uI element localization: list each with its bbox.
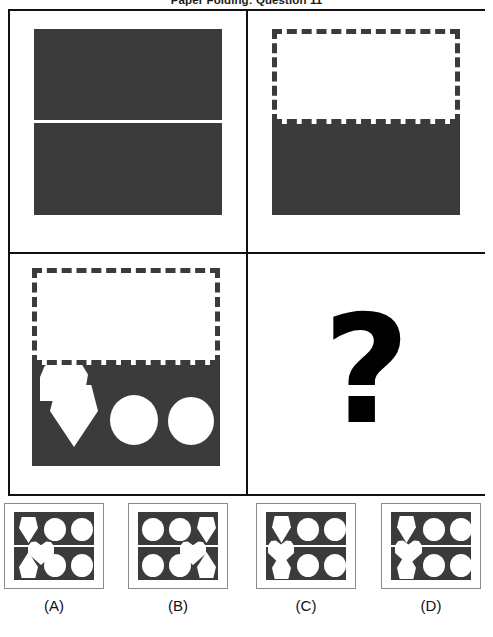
- hole-circle-bottom-left: [142, 554, 164, 577]
- hole-circle-bottom-right: [324, 554, 346, 577]
- hole-circle-middle: [110, 395, 158, 445]
- panel-unfolded-sheet: [10, 11, 248, 254]
- page-title: Paper Folding: Question 11: [0, 0, 493, 6]
- hole-circle-right: [168, 397, 214, 445]
- hole-pentagon-top: [397, 516, 416, 543]
- option-b-frame[interactable]: [128, 503, 228, 589]
- answer-option-d[interactable]: (D): [381, 503, 481, 614]
- hole-circle-bottom-mid: [169, 554, 191, 577]
- question-mark: ?: [248, 254, 485, 494]
- fold-crease-line: [391, 545, 471, 547]
- hole-circle-top-left: [142, 518, 164, 541]
- fold-crease-line: [266, 545, 346, 547]
- hole-pentagon: [50, 385, 98, 447]
- option-a-label: (A): [4, 597, 104, 614]
- answer-options-row: (A) (B): [0, 503, 493, 637]
- hole-circle-top-mid: [169, 518, 191, 541]
- hole-circle-top-right: [450, 518, 472, 541]
- sheet-stage-2: [272, 29, 460, 215]
- option-d-frame[interactable]: [381, 503, 481, 589]
- option-d-label: (D): [381, 597, 481, 614]
- fold-crease-line: [14, 545, 94, 547]
- hole-circle-top-mid: [44, 518, 66, 541]
- sheet-stage-3: [32, 268, 220, 468]
- panel-folded-sheet: [248, 11, 485, 254]
- panel-punched-sheet: [10, 254, 248, 494]
- option-a-frame[interactable]: [4, 503, 104, 589]
- hole-circle-top-mid: [297, 518, 319, 541]
- hole-circle-bottom-mid: [297, 554, 319, 577]
- hole-circle-top-right: [71, 518, 93, 541]
- panel-answer-placeholder: ?: [248, 254, 485, 494]
- hole-circle-bottom-mid: [44, 554, 66, 577]
- ghost-folded-flap-outline: [272, 29, 460, 124]
- hole-pentagon-top: [272, 516, 291, 543]
- answer-option-a[interactable]: (A): [4, 503, 104, 614]
- option-c-label: (C): [256, 597, 356, 614]
- ghost-folded-flap-outline: [32, 268, 220, 365]
- answer-option-b[interactable]: (B): [128, 503, 228, 614]
- hole-pentagon-top: [19, 517, 38, 543]
- hole-circle-top-mid: [423, 518, 445, 541]
- hole-circle-bottom-right: [71, 554, 93, 577]
- hole-circle-bottom-right: [450, 554, 472, 577]
- puzzle-matrix: ?: [8, 9, 485, 496]
- paper-sheet-folded: [272, 124, 460, 215]
- option-c-paper: [266, 512, 346, 580]
- option-b-paper: [138, 512, 218, 580]
- hole-circle-bottom-mid: [423, 554, 445, 577]
- answer-option-c[interactable]: (C): [256, 503, 356, 614]
- option-c-frame[interactable]: [256, 503, 356, 589]
- option-b-label: (B): [128, 597, 228, 614]
- hole-circle-top-right: [324, 518, 346, 541]
- option-a-paper: [14, 512, 94, 580]
- option-d-paper: [391, 512, 471, 580]
- fold-crease-line: [34, 120, 222, 123]
- fold-crease-line: [138, 545, 218, 547]
- paper-sheet-folded: [32, 365, 220, 466]
- hole-pentagon-top: [197, 517, 216, 543]
- sheet-stage-1: [34, 29, 222, 215]
